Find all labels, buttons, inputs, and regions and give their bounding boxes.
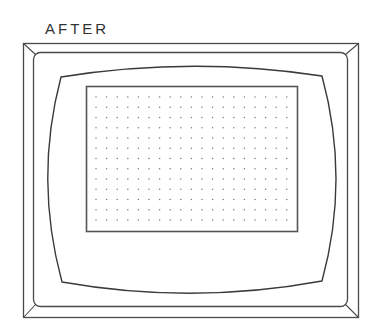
grid-dot <box>212 96 214 98</box>
grid-dot <box>116 107 118 109</box>
grid-dot <box>265 148 267 150</box>
grid-dot <box>201 107 203 109</box>
grid-dot <box>244 117 246 119</box>
grid-dot <box>233 137 235 139</box>
grid-dot <box>159 107 161 109</box>
grid-dot <box>159 158 161 160</box>
grid-dot <box>212 148 214 150</box>
grid-dot <box>201 199 203 201</box>
grid-dot <box>106 117 108 119</box>
grid-dot <box>95 178 97 180</box>
grid-dot <box>127 168 129 170</box>
grid-dot <box>148 148 150 150</box>
grid-dot <box>212 178 214 180</box>
grid-dot <box>191 137 193 139</box>
grid-dot <box>244 158 246 160</box>
grid-dot <box>116 148 118 150</box>
grid-dot <box>191 148 193 150</box>
grid-dot <box>148 127 150 129</box>
grid-dot <box>159 178 161 180</box>
grid-dot <box>148 219 150 221</box>
grid-dot <box>116 209 118 211</box>
grid-dot <box>106 96 108 98</box>
grid-dot <box>138 107 140 109</box>
grid-dot <box>233 168 235 170</box>
grid-dot <box>222 96 224 98</box>
grid-dot <box>169 168 171 170</box>
grid-dot <box>222 127 224 129</box>
grid-dot <box>106 219 108 221</box>
grid-dot <box>159 199 161 201</box>
grid-dot <box>222 148 224 150</box>
grid-dot <box>116 189 118 191</box>
grid-dot <box>180 158 182 160</box>
grid-dot <box>265 199 267 201</box>
grid-dot <box>106 209 108 211</box>
grid-dot <box>138 199 140 201</box>
grid-dot <box>138 178 140 180</box>
grid-dot <box>254 219 256 221</box>
grid-dot <box>148 107 150 109</box>
grid-dot <box>191 158 193 160</box>
monitor-drawing <box>0 0 381 335</box>
grid-dot <box>106 148 108 150</box>
grid-dot <box>265 137 267 139</box>
bevel-corner-tl <box>24 44 36 55</box>
inner-bezel <box>34 53 348 307</box>
grid-dot <box>127 137 129 139</box>
grid-dot <box>254 96 256 98</box>
grid-dot <box>95 148 97 150</box>
grid-dot <box>275 199 277 201</box>
grid-dot <box>169 107 171 109</box>
grid-dot <box>95 189 97 191</box>
bevel-corner-tr <box>346 44 359 55</box>
grid-dot <box>116 199 118 201</box>
grid-dot <box>116 178 118 180</box>
grid-dot <box>233 209 235 211</box>
grid-dot <box>201 127 203 129</box>
grid-dot <box>191 219 193 221</box>
grid-dot <box>106 127 108 129</box>
grid-dot <box>116 158 118 160</box>
grid-dot <box>106 137 108 139</box>
grid-dot <box>116 168 118 170</box>
grid-dot <box>222 219 224 221</box>
grid-dot <box>286 137 288 139</box>
grid-dot <box>95 168 97 170</box>
grid-dot <box>159 219 161 221</box>
grid-dot <box>222 209 224 211</box>
grid-dot <box>286 127 288 129</box>
grid-dot <box>233 127 235 129</box>
grid-dot <box>212 189 214 191</box>
grid-dot <box>275 148 277 150</box>
grid-dot <box>222 168 224 170</box>
grid-dot <box>180 96 182 98</box>
grid-dot <box>254 148 256 150</box>
grid-dot <box>159 117 161 119</box>
grid-dot <box>222 117 224 119</box>
grid-dot <box>233 178 235 180</box>
grid-dot <box>201 168 203 170</box>
grid-dot <box>275 117 277 119</box>
grid-dot <box>148 178 150 180</box>
grid-dot <box>286 168 288 170</box>
grid-dot <box>191 199 193 201</box>
grid-dot <box>95 219 97 221</box>
grid-dot <box>116 117 118 119</box>
grid-dot <box>116 96 118 98</box>
grid-dot <box>127 96 129 98</box>
grid-dot <box>233 148 235 150</box>
grid-dot <box>191 178 193 180</box>
grid-dot <box>159 189 161 191</box>
grid-dot <box>127 199 129 201</box>
grid-dot <box>180 199 182 201</box>
grid-dot <box>169 137 171 139</box>
grid-dot <box>244 168 246 170</box>
grid-dot <box>191 117 193 119</box>
grid-dot <box>212 117 214 119</box>
grid-dot <box>95 117 97 119</box>
grid-dot <box>95 199 97 201</box>
grid-dot <box>244 219 246 221</box>
grid-dot <box>138 148 140 150</box>
grid-dot <box>191 189 193 191</box>
